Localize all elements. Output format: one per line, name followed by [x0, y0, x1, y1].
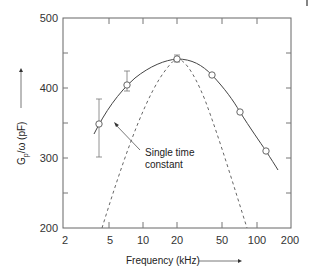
x-tick-10: 10 [137, 234, 149, 246]
annotation-line-1: Single time [145, 147, 195, 158]
annotation-arrow-line [116, 125, 140, 150]
data-point-7khz [124, 82, 130, 88]
x-tick-200: 200 [281, 234, 299, 246]
y-axis-arrow-icon [19, 68, 23, 72]
data-point-4khz [96, 121, 102, 127]
y-tick-500: 500 [40, 12, 58, 24]
data-points [96, 56, 269, 154]
x-tick-2: 2 [62, 234, 68, 246]
data-point-20khz [174, 56, 180, 62]
annotation-arrow-icon [114, 122, 119, 127]
data-point-70khz [237, 109, 243, 115]
svg-text:Gp/ω (pF): Gp/ω (pF) [16, 122, 30, 165]
x-ticks [109, 18, 257, 228]
x-tick-5: 5 [107, 234, 113, 246]
y-tick-400: 400 [40, 82, 58, 94]
annotation-line-2: constant [145, 159, 183, 170]
data-point-120khz [263, 148, 269, 154]
x-tick-20: 20 [171, 234, 183, 246]
chart-canvas: 500 400 300 200 2 5 10 20 50 100 200 Fre… [0, 0, 313, 273]
y-axis-label: Gp/ω (pF) [16, 122, 30, 165]
x-tick-50: 50 [216, 234, 228, 246]
x-axis-label: Frequency (kHz) [126, 255, 200, 266]
data-point-40khz [209, 72, 215, 78]
y-tick-300: 300 [40, 152, 58, 164]
x-tick-100: 100 [248, 234, 266, 246]
error-bars [96, 55, 180, 157]
x-axis-arrow-icon [238, 259, 242, 263]
y-tick-200: 200 [40, 222, 58, 234]
